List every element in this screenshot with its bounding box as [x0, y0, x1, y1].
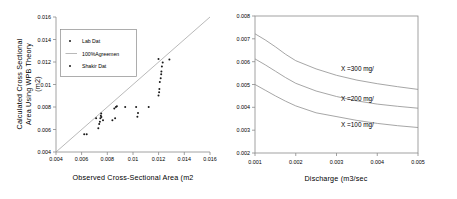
yaxis-title-line1: Calculated Cross Sectional [15, 38, 24, 129]
xtick-label: 0.016 [203, 156, 217, 162]
shakir-data-series [158, 58, 171, 97]
lab-data-series [83, 105, 150, 135]
ytick-label: 0.004 [38, 149, 52, 155]
xtick-label: 0.014 [178, 156, 192, 162]
left-chart-yaxis-title: Calculated Cross Sectional Area Using WP… [15, 38, 42, 129]
ytick-label: 0.005 [237, 82, 251, 88]
legend-label-agreement: 100%Agreemen [82, 51, 119, 57]
curve-label-x200: X =200 mg/ [341, 95, 374, 103]
ytick-label: 0.007 [237, 36, 251, 42]
left-chart-xtick-labels: 0.004 0.006 0.008 0.01 0.012 0.014 0.016 [49, 156, 217, 162]
right-chart-xtick-labels: 0.001 0.002 0.003 0.004 0.005 [248, 159, 425, 165]
left-chart-xaxis-title: Observed Cross-Sectional Area (m2 [73, 173, 194, 182]
curve-label-x100: X =100 mg/ [341, 121, 374, 129]
right-chart-xaxis-title: Discharge (m3/sec [305, 174, 368, 183]
right-chart-yticks [252, 16, 255, 153]
right-chart-frame [255, 16, 418, 153]
ytick-label: 0.006 [237, 59, 251, 65]
curve-x300 [255, 34, 418, 90]
ytick-label: 0.014 [38, 37, 52, 43]
right-chart-panel: X =300 mg/ X =200 mg/ X =100 mg/ 0.008 0… [228, 0, 457, 199]
xtick-label: 0.004 [49, 156, 63, 162]
yaxis-title-line3: (m2) [33, 76, 42, 92]
left-chart-xticks [56, 152, 210, 155]
xtick-label: 0.008 [101, 156, 115, 162]
curve-label-x300: X =300 mg/ [341, 65, 374, 73]
figure-container: Lab Dat 100%Agreemen Shakir Dat 0.004 0.… [0, 0, 457, 199]
xtick-label: 0.004 [371, 159, 385, 165]
xtick-label: 0.005 [411, 159, 425, 165]
legend-label-shakir-dat: Shakir Dat [82, 63, 107, 69]
xtick-label: 0.006 [75, 156, 89, 162]
xtick-label: 0.001 [248, 159, 262, 165]
ytick-label: 0.006 [38, 127, 52, 133]
ytick-label: 0.002 [237, 150, 251, 156]
right-chart-ytick-labels: 0.008 0.007 0.006 0.005 0.004 0.003 0.00… [237, 13, 251, 156]
left-chart-legend: Lab Dat 100%Agreemen Shakir Dat [61, 30, 137, 77]
ytick-label: 0.004 [237, 104, 251, 110]
right-chart-xticks [255, 153, 418, 156]
legend-marker-lab-dat [69, 40, 71, 42]
xtick-label: 0.01 [128, 156, 139, 162]
legend-marker-shakir-dat [69, 65, 71, 67]
ytick-label: 0.008 [38, 104, 52, 110]
legend-label-lab-dat: Lab Dat [82, 38, 101, 44]
xtick-label: 0.003 [330, 159, 344, 165]
ytick-label: 0.003 [237, 127, 251, 133]
yaxis-title-line2: Area Using WPB Theory [24, 43, 33, 125]
left-chart-panel: Lab Dat 100%Agreemen Shakir Dat 0.004 0.… [0, 0, 228, 199]
right-chart-svg: X =300 mg/ X =200 mg/ X =100 mg/ 0.008 0… [228, 0, 457, 199]
ytick-label: 0.016 [38, 14, 52, 20]
left-chart-yticks [53, 17, 56, 152]
ytick-label: 0.008 [237, 13, 251, 19]
ytick-label: 0.012 [38, 59, 52, 65]
left-chart-svg: Lab Dat 100%Agreemen Shakir Dat 0.004 0.… [0, 0, 228, 199]
xtick-label: 0.012 [152, 156, 166, 162]
curve-x200 [255, 59, 418, 108]
ytick-label: 0.01 [41, 82, 52, 88]
xtick-label: 0.002 [289, 159, 303, 165]
